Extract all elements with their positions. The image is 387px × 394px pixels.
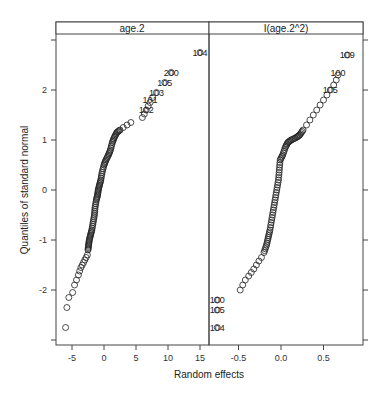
x-tick-label: 0.5 xyxy=(317,353,330,363)
strip-left-label: age.2 xyxy=(119,23,144,34)
data-point xyxy=(77,268,83,274)
points-right-panel: 109100105100105104 xyxy=(210,50,355,333)
point-label: 200 xyxy=(164,68,179,78)
y-axis-right xyxy=(363,40,368,340)
point-label: 102 xyxy=(139,105,154,115)
x-axis-label: Random effects xyxy=(174,369,244,380)
y-tick-label: -2 xyxy=(39,285,47,295)
point-label: 109 xyxy=(340,50,355,60)
y-axis-label: Quantiles of standard normal xyxy=(19,126,30,254)
x-tick-label: -5 xyxy=(68,353,76,363)
x-axis-right: -0.50.00.5 xyxy=(231,345,330,363)
data-point xyxy=(63,325,69,331)
qq-plot-figure: age.2 I(age.2^2) -2-1012 -5051015 -0.50.… xyxy=(0,0,387,394)
y-tick-label: 1 xyxy=(42,135,47,145)
data-point xyxy=(75,272,81,278)
x-tick-label: 0 xyxy=(101,353,106,363)
data-point xyxy=(242,277,248,283)
x-tick-label: 10 xyxy=(163,353,173,363)
point-label: 101 xyxy=(143,95,158,105)
x-tick-label: 0.0 xyxy=(275,353,288,363)
data-point xyxy=(139,115,145,121)
y-axis-left: -2-1012 xyxy=(39,40,56,340)
x-tick-label: 5 xyxy=(133,353,138,363)
point-label: 105 xyxy=(323,85,338,95)
points-left-panel: 104200105103101102 xyxy=(63,48,208,331)
data-point xyxy=(70,290,76,296)
point-label: 104 xyxy=(210,323,225,333)
x-tick-label: 15 xyxy=(195,353,205,363)
y-tick-label: 2 xyxy=(42,85,47,95)
data-point xyxy=(64,305,70,311)
point-label: 105 xyxy=(157,78,172,88)
point-label: 100 xyxy=(330,68,345,78)
y-tick-label: 0 xyxy=(42,185,47,195)
x-axis-left: -5051015 xyxy=(68,345,205,363)
point-label: 100 xyxy=(210,295,225,305)
strip-right-label: I(age.2^2) xyxy=(264,23,309,34)
point-label: 104 xyxy=(192,48,207,58)
panel-left-frame xyxy=(56,22,209,345)
y-tick-label: -1 xyxy=(39,235,47,245)
point-label: 105 xyxy=(210,305,225,315)
x-tick-label: -0.5 xyxy=(231,353,247,363)
